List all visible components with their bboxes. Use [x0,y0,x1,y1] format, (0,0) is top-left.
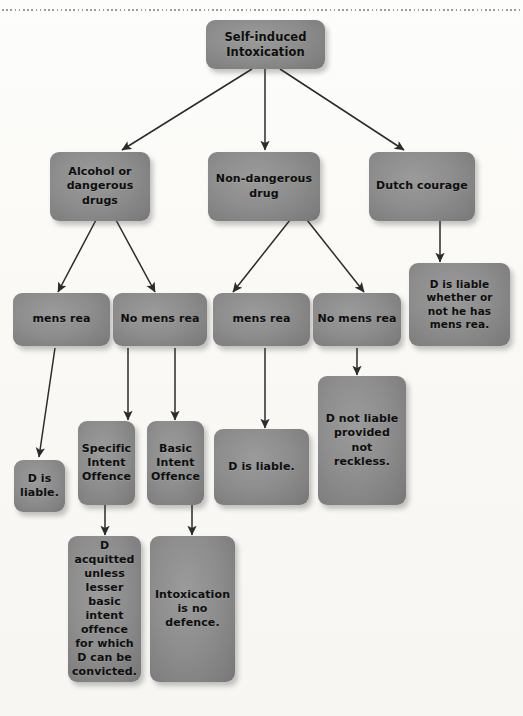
node-line: not he has [426,305,492,318]
node-dutch-courage[interactable]: Dutch courage [369,152,475,221]
node-line: for which [72,637,137,651]
node-intoxication-is-no-defence[interactable]: Intoxication is no defence. [150,536,235,682]
node-non-dangerous-drug[interactable]: Non-dangerous drug [208,152,320,221]
node-line: is no [155,602,230,616]
node-no-mens-rea-alcohol[interactable]: No mens rea [113,293,207,346]
node-line: D is liable. [228,460,295,474]
node-line: liable. [20,486,59,500]
diagram-canvas: Self-induced Intoxication Alcohol or dan… [0,0,523,716]
node-line: mens rea. [426,318,492,331]
node-mens-rea-alcohol[interactable]: mens rea [13,293,110,346]
dotted-divider [2,9,521,11]
node-line: Intoxication [224,45,306,60]
node-line: unless [72,567,137,581]
node-line: Non-dangerous [216,172,312,186]
node-line: Intent [151,456,200,470]
node-line: D not liable [322,412,402,426]
node-line: Offence [82,470,131,484]
node-line: Dutch courage [376,179,468,193]
node-line: provided not [322,426,402,454]
node-line: Basic [151,442,200,456]
node-dutch-courage-outcome[interactable]: D is liable whether or not he has mens r… [409,263,510,346]
node-line: defence. [155,616,230,630]
node-line: mens rea [32,312,90,326]
node-line: Offence [151,470,200,484]
node-line: mens rea [232,312,290,326]
node-line: reckless. [322,455,402,469]
node-line: Self-induced [224,30,306,45]
node-line: offence [72,623,137,637]
node-line: D is liable [426,278,492,291]
node-d-acquitted-unless-lesser-basic-intent[interactable]: D acquitted unless lesser basic intent o… [68,536,141,682]
node-line: intent [72,609,137,623]
node-line: D acquitted [72,539,137,567]
node-mens-rea-nondangerous[interactable]: mens rea [213,293,310,346]
node-line: Intent [82,456,131,470]
node-line: convicted. [72,665,137,679]
node-line: Intoxication [155,588,230,602]
node-line: No mens rea [120,312,199,326]
node-alcohol-or-dangerous-drugs[interactable]: Alcohol or dangerous drugs [50,152,150,221]
node-line: drug [216,187,312,201]
node-line: lesser basic [72,581,137,609]
node-line: No mens rea [317,312,396,326]
node-line: D can be [72,651,137,665]
node-line: Alcohol or [67,165,134,179]
node-line: dangerous [67,179,134,193]
node-line: D is [20,472,59,486]
node-d-not-liable-provided-not-reckless[interactable]: D not liable provided not reckless. [318,376,406,505]
node-line: drugs [67,194,134,208]
node-line: whether or [426,291,492,304]
node-no-mens-rea-nondangerous[interactable]: No mens rea [313,293,401,346]
node-self-induced-intoxication[interactable]: Self-induced Intoxication [206,20,325,69]
node-basic-intent-offence[interactable]: Basic Intent Offence [147,421,204,505]
node-d-is-liable-mid[interactable]: D is liable. [214,429,309,505]
node-specific-intent-offence[interactable]: Specific Intent Offence [78,421,135,505]
node-d-is-liable-left[interactable]: D is liable. [14,460,65,512]
node-line: Specific [82,442,131,456]
